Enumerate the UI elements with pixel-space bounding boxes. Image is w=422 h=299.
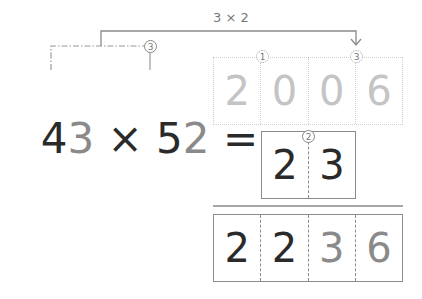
marker-circle-bracket: 3 <box>144 40 157 53</box>
result-digit: 2 <box>260 215 307 281</box>
digit-cell: 2 <box>214 58 260 124</box>
equation-digit: 4 <box>41 114 68 164</box>
step-marker-1: 1 <box>256 50 269 63</box>
digit-cell: 0 <box>260 58 307 124</box>
digit-cell: 6 <box>355 58 402 124</box>
result-digit: 3 <box>308 215 355 281</box>
times-sign: × <box>94 114 156 164</box>
equation-digit: 5 <box>156 114 183 164</box>
equation-digit-highlight: 3 <box>67 114 94 164</box>
step-marker-2: 2 <box>302 130 315 143</box>
result-digit: 2 <box>214 215 260 281</box>
result-digit: 6 <box>355 215 402 281</box>
step-marker-3: 3 <box>350 50 363 63</box>
digit-cell: 2 <box>262 132 308 198</box>
digit-cell: 3 <box>308 132 355 198</box>
annotation-label: 3 × 2 <box>213 10 249 25</box>
digit-cell: 0 <box>308 58 355 124</box>
result-row: 2 2 3 6 <box>213 214 403 282</box>
partial-product-row-1: 2 0 0 6 <box>213 57 403 125</box>
equation-digit-highlight: 2 <box>183 114 210 164</box>
